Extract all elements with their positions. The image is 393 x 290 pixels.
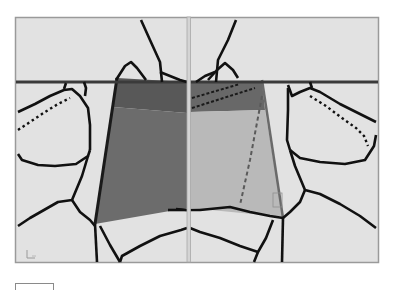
pane-divider[interactable] [187, 17, 191, 262]
status-box [15, 283, 54, 290]
